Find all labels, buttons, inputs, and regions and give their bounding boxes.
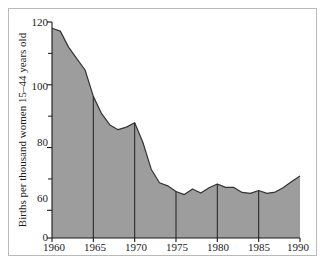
y-tick-label-120: 120 — [32, 16, 49, 28]
x-tick-label-1980: 1980 — [207, 241, 230, 253]
y-axis-title: Births per thousand women 15–44 years ol… — [16, 32, 28, 227]
y-tick-label-80: 80 — [37, 136, 49, 148]
y-tick-label-60: 60 — [37, 192, 49, 204]
birth-rate-area-chart: 120 100 80 60 0 1960 1965 1970 1975 1980… — [0, 0, 325, 272]
y-axis-ticks — [47, 22, 52, 238]
x-tick-label-1990: 1990 — [287, 241, 310, 253]
x-tick-label-1985: 1985 — [248, 241, 271, 253]
figure-container: 120 100 80 60 0 1960 1965 1970 1975 1980… — [0, 0, 325, 272]
x-tick-label-1975: 1975 — [166, 241, 189, 253]
y-tick-label-100: 100 — [32, 80, 49, 92]
x-tick-label-1960: 1960 — [43, 241, 66, 253]
x-tick-label-1965: 1965 — [84, 241, 107, 253]
x-tick-label-1970: 1970 — [125, 241, 148, 253]
